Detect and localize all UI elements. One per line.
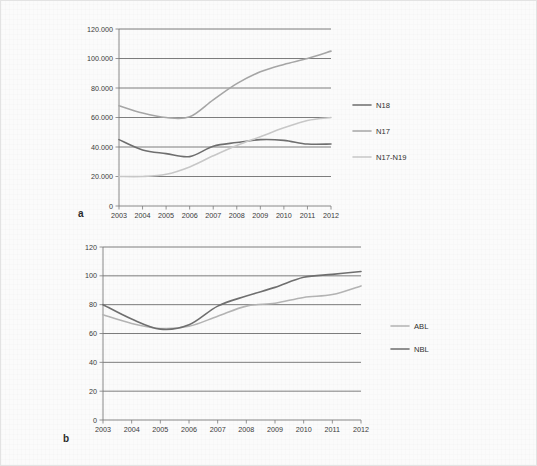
y-axis-tick-label: 0 (93, 416, 97, 425)
x-axis-tick-label: 2004 (124, 425, 140, 434)
series-line-n18 (119, 139, 331, 156)
x-axis-tick-label: 2012 (353, 425, 369, 434)
legend-label-n18: N18 (376, 101, 390, 110)
chart-panel-b: 0204060801001202003200420052006200720082… (1, 227, 537, 466)
y-axis-tick-label: 100 (85, 271, 97, 280)
x-axis-tick-label: 2010 (296, 425, 312, 434)
y-axis-tick-label: 40.000 (91, 143, 113, 152)
y-axis-tick-label: 100.000 (87, 54, 113, 63)
x-axis-tick-label: 2007 (210, 425, 226, 434)
x-axis-tick-label: 2005 (158, 211, 174, 220)
series-line-nbl (103, 272, 361, 330)
y-axis-tick-label: 60 (89, 329, 97, 338)
x-axis-tick-label: 2006 (182, 211, 198, 220)
series-line-abl (103, 286, 361, 329)
y-axis-tick-label: 20 (89, 387, 97, 396)
y-axis-tick-label: 80.000 (91, 84, 113, 93)
y-axis-tick-label: 0 (109, 202, 113, 211)
x-axis-tick-label: 2009 (267, 425, 283, 434)
panel-label-a: a (78, 208, 84, 219)
x-axis-tick-label: 2008 (229, 211, 245, 220)
chart-a-svg: 020.00040.00060.00080.000100.000120.0002… (1, 1, 537, 229)
panel-label-b: b (63, 433, 69, 444)
x-axis-tick-label: 2003 (111, 211, 127, 220)
y-axis-tick-label: 20.000 (91, 172, 113, 181)
legend-label-n17-n19: N17-N19 (376, 153, 406, 162)
figure-container: 020.00040.00060.00080.000100.000120.0002… (0, 0, 537, 466)
x-axis-tick-label: 2012 (323, 211, 339, 220)
y-axis-tick-label: 120 (85, 243, 97, 252)
x-axis-tick-label: 2005 (152, 425, 168, 434)
chart-panel-a: 020.00040.00060.00080.000100.000120.0002… (1, 1, 537, 229)
legend-label-n17: N17 (376, 127, 390, 136)
chart-b-svg: 0204060801001202003200420052006200720082… (1, 227, 537, 466)
x-axis-tick-label: 2003 (95, 425, 111, 434)
y-axis-tick-label: 120.000 (87, 25, 113, 34)
x-axis-tick-label: 2004 (135, 211, 151, 220)
x-axis-tick-label: 2006 (181, 425, 197, 434)
x-axis-tick-label: 2007 (205, 211, 221, 220)
y-axis-tick-label: 40 (89, 358, 97, 367)
x-axis-tick-label: 2010 (276, 211, 292, 220)
x-axis-tick-label: 2009 (252, 211, 268, 220)
y-axis-tick-label: 80 (89, 300, 97, 309)
x-axis-tick-label: 2011 (325, 425, 340, 434)
legend-label-abl: ABL (414, 322, 428, 331)
y-axis-tick-label: 60.000 (91, 113, 113, 122)
x-axis-tick-label: 2008 (238, 425, 254, 434)
x-axis-tick-label: 2011 (300, 211, 315, 220)
series-line-n17 (119, 51, 331, 118)
legend-label-nbl: NBL (414, 345, 429, 354)
